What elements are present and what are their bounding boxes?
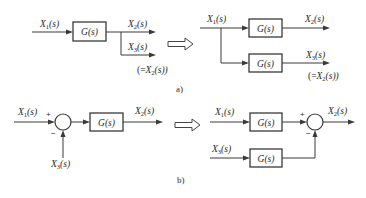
arrowhead-icon [48,120,55,125]
arrowhead-icon [323,26,330,31]
b-right-block2-label: G(s) [258,154,275,165]
arrowhead-icon [149,30,156,35]
arrowhead-icon [156,120,163,125]
b-left-minus-sign: − [51,129,56,138]
part-b-left: X1(s) + − X3(s) G(s) X2(s) [14,106,163,170]
b-right-output-label: X2(s) [327,106,347,117]
b-left-output-label: X2(s) [134,106,154,117]
b-right-block1-label: G(s) [258,118,275,129]
part-a-right: X1(s) G(s) G(s) X2(s) X3(s) (=X2(s)) [200,14,339,82]
b-left-feed-label: X3(s) [50,159,70,170]
arrowhead-icon [243,156,250,161]
b-left-plus-sign: + [46,110,51,119]
caption-b: b) [177,175,185,185]
arrowhead-icon [300,120,307,125]
a-left-input-label: X1(s) [39,19,59,30]
arrowhead-icon [83,120,90,125]
transform-arrow-b-icon [175,119,200,131]
caption-a: a) [176,84,183,94]
part-b-right: X1(s) G(s) + − X2(s) X3(s) G(s) [210,106,355,167]
arrowhead-icon [149,53,156,58]
a-left-note: (=X2(s)) [137,65,168,76]
arrowhead-icon [348,120,355,125]
arrowhead-icon [66,30,73,35]
b-right-summing-junction [307,114,323,130]
arrowhead-icon [243,120,250,125]
a-right-branch-line [221,28,246,63]
b-right-input2-label: X3(s) [211,144,231,155]
arrowhead-icon [242,61,249,66]
a-right-output2-label: X3(s) [305,50,325,61]
b-left-block-label: G(s) [98,118,115,129]
part-a-left: X1(s) G(s) X2(s) X3(s) (=X2(s)) [32,19,168,76]
a-right-block2-label: G(s) [257,59,274,70]
arrowhead-icon [313,130,318,137]
arrowhead-icon [242,26,249,31]
arrowhead-icon [61,130,66,137]
b-left-summing-junction [55,114,71,130]
a-left-block-label: G(s) [81,27,98,38]
b-right-plus-sign: + [300,110,305,119]
a-right-note: (=X2(s)) [308,71,339,82]
block-diagram-transformations: X1(s) G(s) X2(s) X3(s) (=X2(s)) X1(s) G(… [0,0,366,198]
a-left-output1-label: X2(s) [127,19,147,30]
arrowhead-icon [323,61,330,66]
b-left-input-label: X1(s) [17,107,37,118]
a-right-block1-label: G(s) [257,24,274,35]
a-right-input-label: X1(s) [206,14,226,25]
a-left-output2-label: X3(s) [127,42,147,53]
b-right-input1-label: X1(s) [214,107,234,118]
b-right-minus-sign: − [306,129,311,138]
transform-arrow-a-icon [168,38,193,50]
a-right-output1-label: X2(s) [304,14,324,25]
